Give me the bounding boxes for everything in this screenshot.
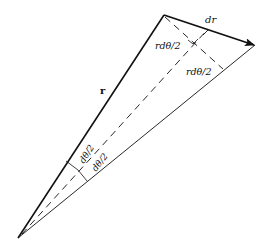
- dtheta-half-lower-label: dθ/2: [90, 151, 110, 173]
- vector-triangle-diagram: r dr rdθ/2 rdθ/2 dθ/2 dθ/2: [0, 0, 272, 248]
- angle-arc-upper: [66, 161, 78, 170]
- r-dtheta-half-upper-label: rdθ/2: [155, 40, 181, 51]
- r-label: r: [100, 85, 106, 96]
- dr-midpoint-tick: [203, 30, 208, 35]
- bisector-dashed-line: [22, 30, 207, 234]
- r-vector-line: [18, 15, 164, 238]
- angle-arc-lower: [78, 170, 87, 181]
- r-dtheta-half-lower-label: rdθ/2: [186, 66, 212, 77]
- r-plus-dr-line: [18, 45, 255, 238]
- dr-label: dr: [205, 14, 217, 25]
